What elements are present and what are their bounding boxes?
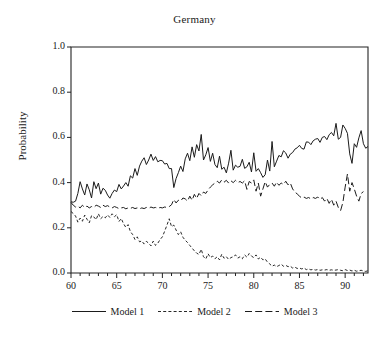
x-tick-label: 60 xyxy=(51,280,91,291)
series-line-1 xyxy=(71,123,368,202)
legend-line-swatch xyxy=(245,307,279,316)
y-tick-label: 0.2 xyxy=(27,221,65,232)
x-tick-label: 90 xyxy=(325,280,365,291)
axes xyxy=(71,47,368,273)
legend-line-swatch xyxy=(72,307,106,316)
legend-label: Model 2 xyxy=(197,306,231,317)
x-tick-label: 65 xyxy=(97,280,137,291)
chart-legend: Model 1Model 2Model 3 xyxy=(0,306,389,317)
axis-ticks xyxy=(67,47,363,278)
series-line-3 xyxy=(71,174,363,211)
legend-item-3[interactable]: Model 3 xyxy=(245,306,318,317)
x-tick-label: 70 xyxy=(142,280,182,291)
data-series xyxy=(71,123,368,271)
chart-title: Germany xyxy=(0,13,389,25)
legend-item-2[interactable]: Model 2 xyxy=(158,306,231,317)
x-tick-label: 85 xyxy=(279,280,319,291)
legend-item-1[interactable]: Model 1 xyxy=(72,306,145,317)
legend-label: Model 3 xyxy=(284,306,318,317)
plot-frame xyxy=(71,47,368,273)
y-tick-label: 0.8 xyxy=(27,85,65,96)
y-tick-label: 0.0 xyxy=(27,266,65,277)
series-line-2 xyxy=(71,212,368,272)
chart-figure: Germany Probability 0.00.20.40.60.81.0 6… xyxy=(0,0,389,341)
x-tick-label: 80 xyxy=(234,280,274,291)
legend-label: Model 1 xyxy=(111,306,145,317)
y-tick-label: 1.0 xyxy=(27,40,65,51)
x-tick-label: 75 xyxy=(188,280,228,291)
y-tick-label: 0.6 xyxy=(27,130,65,141)
legend-line-swatch xyxy=(158,307,192,316)
y-tick-label: 0.4 xyxy=(27,176,65,187)
